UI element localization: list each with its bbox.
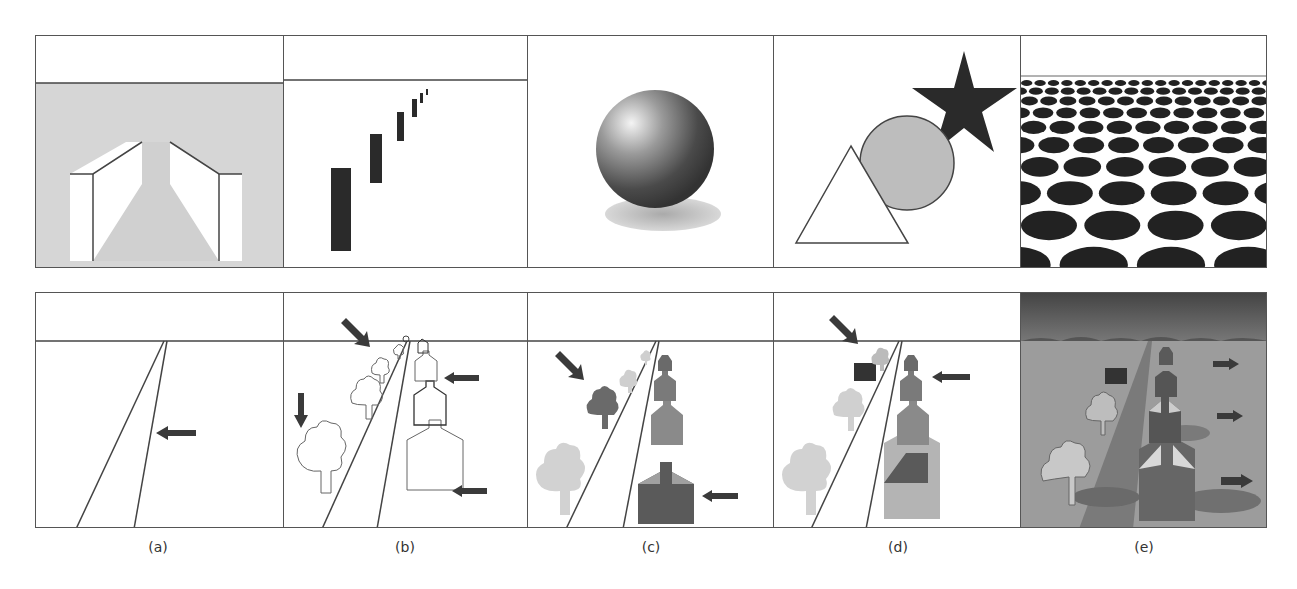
panel-bottom-d (773, 292, 1022, 528)
caption-e: (e) (1114, 539, 1174, 555)
panel-top-d (773, 35, 1022, 268)
occlusion-shapes-illustration (774, 36, 1022, 268)
panel-top-a (35, 35, 285, 268)
shaded-scene-illustration (528, 293, 775, 528)
arrow-icon (294, 393, 308, 428)
arrow-icon (341, 318, 370, 347)
caption-d: (d) (868, 539, 928, 555)
panel-top-b (283, 35, 529, 268)
road-perspective-illustration (36, 293, 285, 528)
arrow-icon (452, 485, 487, 497)
panel-top-e (1020, 35, 1267, 268)
caption-b: (b) (375, 539, 435, 555)
occlusion-scene-illustration (774, 293, 1022, 528)
caption-c: (c) (621, 539, 681, 555)
panel-bottom-a (35, 292, 285, 528)
relative-height-bars-illustration (284, 36, 529, 268)
arrow-icon (932, 371, 970, 383)
shaded-sphere-illustration (528, 36, 775, 268)
panel-bottom-b (283, 292, 529, 528)
arrow-icon (156, 426, 196, 440)
outlined-scene-illustration (284, 293, 529, 528)
walls-perspective-illustration (36, 36, 285, 268)
arrow-icon (555, 351, 584, 380)
panel-bottom-c (527, 292, 775, 528)
occluding-box (854, 363, 876, 381)
arrow-icon (829, 315, 858, 344)
arrow-icon (702, 490, 738, 502)
caption-a: (a) (128, 539, 188, 555)
texture-gradient-illustration (1021, 36, 1267, 268)
textured-scene-illustration (1021, 293, 1267, 528)
panel-bottom-e (1020, 292, 1267, 528)
arrow-icon (444, 372, 479, 384)
panel-top-c (527, 35, 775, 268)
